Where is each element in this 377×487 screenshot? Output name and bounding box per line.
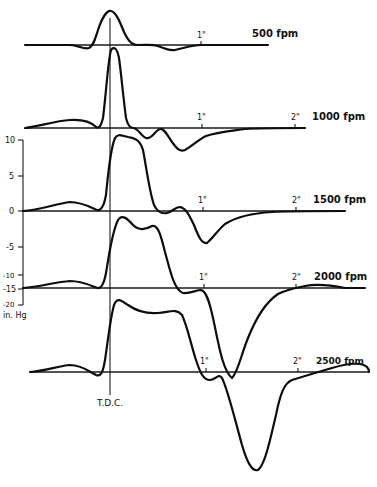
series-label: 1500 fpm (313, 194, 366, 205)
distance-marker: 1" (197, 31, 206, 40)
y-tick-label: 10 (5, 136, 15, 145)
chart-container: 10 5 0 -5 -10 -15 -20 in. Hg T.D.C. 1" 5… (0, 0, 377, 487)
distance-marker: 1" (199, 273, 208, 282)
trace-line (25, 11, 268, 50)
y-tick-label: 5 (9, 172, 14, 181)
y-tick-label: -20 (3, 301, 14, 309)
y-axis: 10 5 0 -5 -10 -15 -20 in. Hg (3, 136, 26, 320)
series-label: 1000 fpm (312, 111, 365, 122)
distance-marker: 1" (197, 113, 206, 122)
series-2500-fpm: 1" 2" 2500 fpm (30, 300, 369, 470)
y-tick-label: -15 (3, 285, 16, 294)
y-tick-label: -5 (6, 243, 14, 252)
distance-marker: 2" (292, 196, 301, 205)
series-1000-fpm: 1" 2" 1000 fpm (25, 48, 365, 151)
series-label: 2000 fpm (314, 271, 367, 282)
y-tick-label: -10 (3, 272, 14, 280)
y-tick-label: 0 (9, 207, 14, 216)
tdc-label: T.D.C. (96, 398, 123, 408)
distance-marker: 1" (198, 196, 207, 205)
chart-svg: 10 5 0 -5 -10 -15 -20 in. Hg T.D.C. 1" 5… (0, 0, 377, 487)
distance-marker: 1" (200, 357, 209, 366)
series-1500-fpm: 1" 2" 1500 fpm (23, 135, 366, 243)
series-500-fpm: 1" 500 fpm (25, 11, 298, 50)
distance-marker: 2" (291, 113, 300, 122)
trace-line (25, 48, 305, 151)
distance-marker: 2" (293, 357, 302, 366)
series-label: 500 fpm (252, 28, 298, 39)
distance-marker: 2" (292, 273, 301, 282)
y-axis-label: in. Hg (3, 311, 26, 320)
trace-line (30, 300, 369, 470)
